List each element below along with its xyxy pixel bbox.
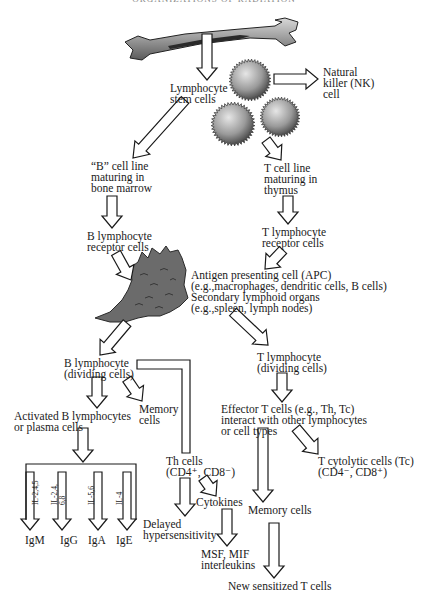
label-cytokines: Cytokines: [196, 497, 243, 508]
arrow-cytokines-to-msf: [217, 509, 237, 546]
lymphocyte-cell-illustration: [260, 97, 300, 137]
ig-label: IgM: [25, 534, 45, 546]
ig-label: IgA: [88, 534, 106, 546]
label-msf-mif: MSF, MIF interleukins: [201, 549, 255, 571]
immune-lineage-diagram: ORGANIZATIONS OF RADIATION: [0, 0, 428, 601]
label-t-memory: Memory cells: [248, 505, 312, 516]
arrow-t-receptor-to-apc: [265, 247, 287, 269]
arrow-to-t-line: [262, 137, 282, 160]
label-delayed-hypersensitivity: Delayed hypersensitivity: [143, 519, 216, 541]
arrow-to-nk: [274, 69, 318, 89]
ig-label: IgE: [116, 534, 133, 546]
ig-label: IgG: [60, 534, 78, 546]
label-effector-t: Effector T cells (e.g., Th, Tc) interact…: [221, 404, 367, 437]
label-t-cell-line: T cell line maturing in thymus: [264, 163, 317, 196]
nk-cell-illustration: [229, 59, 271, 101]
arrow-th-to-delayed: [175, 478, 195, 516]
label-b-receptor: B lymphocyte receptor cells: [87, 231, 152, 253]
label-apc: Antigen presenting cell (APC) (e.g.,macr…: [191, 270, 387, 314]
arrow-b-line-to-receptor: [102, 196, 122, 228]
il-label: IL-5,6: [88, 486, 96, 505]
arrow-b-receptor-to-apc: [112, 251, 134, 280]
arrow-t-dividing-to-effector: [272, 373, 292, 402]
il-label: IL-4: [116, 492, 124, 505]
label-stem-cells: Lymphocyte stem cells: [170, 83, 228, 105]
label-activated-b: Activated B lymphocytes or plasma cells: [14, 411, 131, 433]
arrow-t-line-to-receptor: [278, 196, 298, 224]
arrow-activated-to-ig: [73, 428, 93, 462]
arrow-effector-to-memory: [253, 428, 273, 502]
label-nk-cell: Natural killer (NK) cell: [323, 67, 374, 100]
arrow-apc-to-b-dividing: [100, 320, 131, 355]
arrow-memory-to-new-t: [264, 523, 284, 578]
label-t-dividing: T lymphocyte (dividing cells): [257, 352, 327, 374]
label-b-memory: Memory cells: [139, 404, 179, 426]
label-tc-cells: T cytolytic cells (Tc) (CD4⁻, CD8⁺): [318, 456, 414, 478]
lymphocyte-cell-illustration: [211, 102, 255, 146]
arrow-b-dividing-to-activated: [87, 377, 107, 408]
label-new-t-cells: New sensitized T cells: [228, 581, 331, 592]
label-t-receptor: T lymphocyte receptor cells: [262, 227, 326, 249]
label-th-cells: Th cells (CD4⁺, CD8⁻): [166, 456, 235, 478]
il-label: IL-2,4,5: [32, 480, 40, 505]
arrow-stem-to-b-line: [133, 97, 189, 158]
arrow-th-to-cytokines: [199, 475, 217, 496]
il-label: IL-2,4, 6,8: [51, 484, 67, 505]
label-b-cell-line: “B” cell line maturing in bone marrow: [91, 161, 152, 194]
apc-illustration: [95, 246, 188, 322]
label-b-dividing: B lymphocyte (dividing cells): [64, 358, 134, 380]
